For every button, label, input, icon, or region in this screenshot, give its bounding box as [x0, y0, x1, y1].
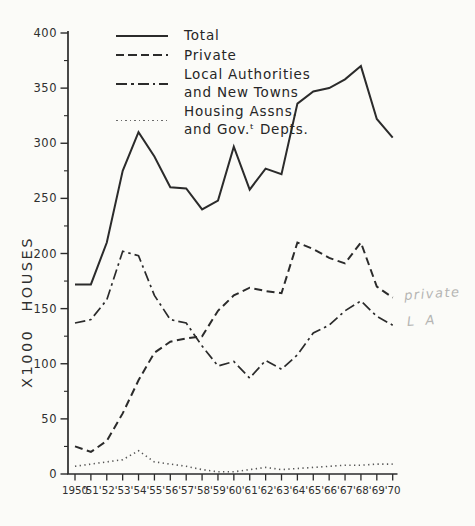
legend-dashed-line-sample: [116, 54, 168, 56]
x-tick-label: '53: [115, 484, 131, 496]
x-tick-label: '68: [353, 484, 369, 496]
y-tick-label: 400: [34, 26, 57, 40]
x-tick-label: '55: [146, 484, 162, 496]
x-tick-label: '54: [131, 484, 147, 496]
series-line-dashdot: [75, 251, 393, 378]
x-tick-label: '63: [274, 484, 290, 496]
x-tick-label: '57: [178, 484, 194, 496]
legend: Total Private Local Authorities and New …: [116, 27, 310, 140]
series-line-dashed: [75, 243, 393, 452]
y-tick-label: 350: [34, 81, 57, 95]
legend-label-total: Total: [184, 27, 220, 45]
legend-dotted-line-sample: [116, 120, 168, 122]
legend-item-housing-assns: Housing Assns. and Gov.ᵗ Depts.: [116, 103, 310, 138]
x-tick-label: '66: [321, 484, 337, 496]
handwritten-note-la: L A: [407, 312, 437, 329]
y-tick-label: 150: [34, 302, 57, 316]
x-tick-label: '62: [258, 484, 274, 496]
legend-item-private: Private: [116, 47, 310, 65]
legend-solid-line-sample: [116, 35, 168, 37]
y-tick-label: 0: [49, 467, 57, 481]
x-tick-label: '56: [162, 484, 178, 496]
x-tick-label: '61: [242, 484, 258, 496]
x-tick-label: '64: [289, 484, 305, 496]
x-tick-label: '67: [337, 484, 353, 496]
legend-item-total: Total: [116, 27, 310, 45]
x-tick-label: '70: [385, 484, 401, 496]
y-tick-label: 300: [34, 136, 57, 150]
scanned-chart-page: 0501001502002503003504001950'51'52'53'54…: [0, 0, 475, 526]
series-line-dotted: [75, 451, 393, 472]
legend-item-local-authorities: Local Authorities and New Towns: [116, 66, 310, 101]
x-tick-label: '52: [99, 484, 115, 496]
legend-dashdot-line-sample: [116, 83, 168, 85]
y-tick-label: 250: [34, 191, 57, 205]
y-axis-title: X1000 HOUSES: [19, 236, 35, 388]
y-tick-label: 50: [41, 412, 57, 426]
legend-label-local-authorities: Local Authorities and New Towns: [184, 66, 310, 101]
legend-label-housing-assns: Housing Assns. and Gov.ᵗ Depts.: [184, 103, 309, 138]
x-tick-label: '60: [226, 484, 242, 496]
x-tick-label: '59: [210, 484, 226, 496]
x-tick-label: '51: [83, 484, 99, 496]
x-tick-label: '69: [369, 484, 385, 496]
y-tick-label: 100: [34, 357, 57, 371]
x-tick-label: '58: [194, 484, 210, 496]
legend-label-private: Private: [184, 47, 237, 65]
y-tick-label: 200: [34, 247, 57, 261]
x-tick-label: '65: [305, 484, 321, 496]
